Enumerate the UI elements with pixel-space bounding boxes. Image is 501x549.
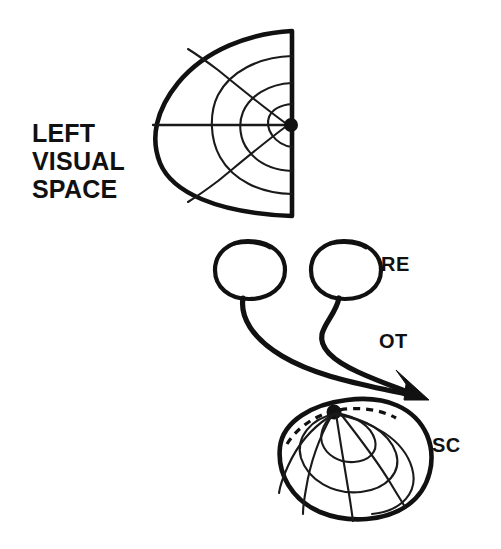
superior-colliculus-label: SC bbox=[432, 434, 461, 456]
visual-space-label-line2: VISUAL bbox=[32, 147, 125, 175]
neuroanatomy-diagram: LEFT VISUAL SPACE RE OT bbox=[0, 0, 501, 549]
figure-root: LEFT VISUAL SPACE RE OT bbox=[0, 0, 501, 549]
right-eye-label: RE bbox=[381, 253, 410, 275]
visual-space-label-line3: SPACE bbox=[32, 175, 117, 203]
visual-space-group bbox=[153, 31, 298, 216]
right-eye-globe bbox=[311, 241, 381, 299]
fovea-dot bbox=[284, 118, 298, 132]
visual-space-label-line1: LEFT bbox=[32, 119, 95, 147]
visual-space-label-group: LEFT VISUAL SPACE bbox=[32, 119, 125, 203]
eyes-group bbox=[215, 241, 381, 299]
optic-tract-label: OT bbox=[379, 330, 408, 352]
elevation-line-lower bbox=[188, 125, 288, 202]
superior-colliculus-group bbox=[279, 399, 431, 521]
colliculus-meridian-2 bbox=[336, 414, 353, 521]
left-eye-globe bbox=[215, 241, 285, 299]
